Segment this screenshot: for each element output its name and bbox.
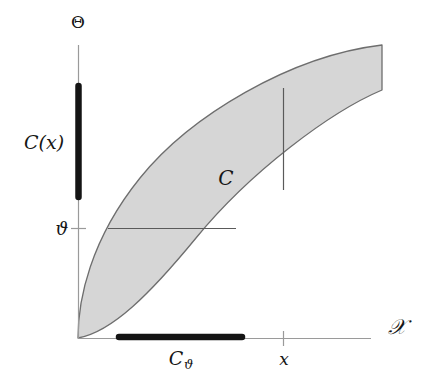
horizontal-interval-label-ctheta: Cϑ [169, 349, 193, 371]
region-label-c: C [218, 168, 233, 188]
y-axis-label: Θ [71, 14, 85, 31]
figure-canvas: Θ 𝒳 C(x) ϑ C Cϑ x [0, 0, 433, 384]
ctheta-subscript: ϑ [184, 357, 193, 372]
y-tick-label-vartheta: ϑ [56, 220, 69, 238]
x-axis-label: 𝒳 [388, 317, 406, 338]
shaded-region-c [78, 45, 382, 338]
x-tick-label-x: x [279, 351, 289, 368]
diagram-svg [0, 0, 433, 384]
vertical-interval-label-cx: C(x) [24, 133, 64, 152]
ctheta-base: C [169, 347, 184, 369]
